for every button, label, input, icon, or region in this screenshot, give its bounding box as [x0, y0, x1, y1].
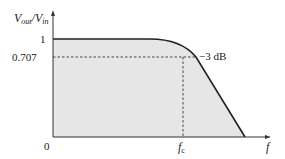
y-tick-0707: 0.707 — [12, 51, 37, 63]
x-axis-label: f — [266, 140, 271, 154]
y-axis-label: Vout/Vin — [14, 11, 48, 26]
frequency-response-chart: Vout/Vin 1 0.707 0 fc f −3 dB — [0, 0, 285, 159]
fc-label: fc — [178, 140, 185, 155]
origin-label: 0 — [44, 140, 50, 152]
db-annotation: −3 dB — [199, 50, 226, 62]
x-axis-arrow-icon — [265, 135, 271, 139]
y-tick-1: 1 — [40, 33, 46, 45]
y-axis-arrow-icon — [51, 10, 55, 16]
